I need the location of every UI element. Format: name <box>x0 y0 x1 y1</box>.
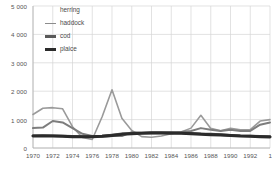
x-tick-label: 1978 <box>105 152 119 159</box>
y-tick-label: 3 000 <box>11 59 27 66</box>
x-tick-label: 1972 <box>46 152 60 159</box>
y-axis: 01 0002 0003 0004 0005 000 <box>0 0 30 173</box>
x-tick-label: 1980 <box>125 152 139 159</box>
x-tick-label: 19 <box>269 152 272 159</box>
chart-legend: herringhaddockcodplaice <box>45 4 115 56</box>
y-tick-label: 4 000 <box>11 31 27 38</box>
x-tick-label: 1992 <box>243 152 257 159</box>
x-tick-label: 1970 <box>26 152 40 159</box>
y-tick-label: 2 000 <box>11 88 27 95</box>
legend-item-cod[interactable]: cod <box>45 30 115 43</box>
legend-swatch-icon <box>45 23 56 25</box>
x-tick-label: 1976 <box>85 152 99 159</box>
legend-item-label: herring <box>60 7 80 13</box>
line-chart: 01 0002 0003 0004 0005 000 1970197219741… <box>0 0 272 173</box>
x-axis: 1970197219741976197819801982198419861988… <box>33 152 272 166</box>
legend-item-label: plaice <box>60 46 77 52</box>
legend-item-label: haddock <box>60 20 84 26</box>
y-tick-label: 1 000 <box>11 116 27 123</box>
legend-swatch-icon <box>45 48 56 51</box>
legend-item-haddock[interactable]: haddock <box>45 17 115 30</box>
x-tick-label: 1986 <box>184 152 198 159</box>
x-tick-label: 1988 <box>204 152 218 159</box>
x-tick-label: 1990 <box>223 152 237 159</box>
y-tick-label: 0 <box>23 145 27 152</box>
y-tick-label: 5 000 <box>11 3 27 10</box>
legend-item-plaice[interactable]: plaice <box>45 43 115 56</box>
legend-swatch-icon <box>45 35 56 37</box>
legend-item-label: cod <box>60 33 70 39</box>
legend-item-herring[interactable]: herring <box>45 4 115 17</box>
x-tick-label: 1984 <box>164 152 178 159</box>
series-line-plaice <box>33 133 270 137</box>
legend-swatch-icon <box>45 10 56 12</box>
x-tick-label: 1974 <box>65 152 79 159</box>
x-tick-label: 1982 <box>144 152 158 159</box>
